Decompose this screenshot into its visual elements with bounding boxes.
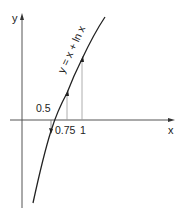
x-tick-1-label: 1 — [80, 124, 86, 136]
function-graph: y x 0.5 0.75 1 y = x + ln x — [0, 0, 178, 210]
y-axis-arrow-icon — [20, 13, 24, 20]
x-axis-label: x — [168, 124, 174, 136]
y-axis-label: y — [12, 12, 18, 24]
point-05-label: 0.5 — [36, 102, 51, 114]
x-axis-arrow-icon — [168, 118, 175, 122]
curve-equation-label: y = x + ln x — [55, 23, 88, 75]
x-tick-075-label: 0.75 — [55, 124, 76, 136]
point-05-arrow-icon — [49, 128, 53, 134]
